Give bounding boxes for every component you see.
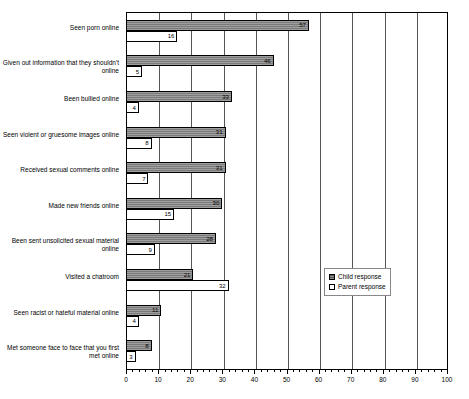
x-minor-tick — [216, 370, 217, 372]
bar-value-label: 46 — [264, 58, 271, 64]
legend-swatch-child-icon — [329, 274, 335, 280]
bar-parent: 3 — [126, 351, 136, 362]
x-tick-label: 10 — [154, 376, 161, 384]
x-tick-label: 60 — [315, 376, 322, 384]
bar-value-label: 31 — [216, 129, 223, 135]
bar-value-label: 32 — [219, 283, 226, 289]
x-tick — [287, 370, 288, 374]
x-minor-tick — [421, 370, 422, 372]
x-minor-tick — [197, 370, 198, 372]
x-minor-tick — [242, 370, 243, 372]
category-label: Seen porn online — [0, 24, 119, 32]
legend: Child response Parent response — [324, 268, 391, 296]
bar-child: 28 — [126, 233, 216, 244]
bar-parent: 9 — [126, 244, 155, 255]
x-axis-tick-labels: 0102030405060708090100 — [126, 376, 448, 388]
bar-parent: 8 — [126, 138, 152, 149]
bar-value-label: 15 — [164, 211, 171, 217]
bar-parent: 7 — [126, 173, 148, 184]
x-tick — [158, 370, 159, 374]
x-tick — [190, 370, 191, 374]
bar-value-label: 57 — [299, 22, 306, 28]
bar-child: 8 — [126, 340, 152, 351]
category-label: Been bullied online — [0, 95, 119, 103]
x-minor-tick — [402, 370, 403, 372]
x-minor-tick — [325, 370, 326, 372]
x-minor-tick — [171, 370, 172, 372]
bar-parent: 5 — [126, 66, 142, 77]
category-label: Been sent unsolicited sexual material on… — [0, 237, 119, 253]
legend-item: Child response — [329, 272, 386, 282]
x-minor-tick — [338, 370, 339, 372]
x-tick-label: 0 — [124, 376, 128, 384]
category-label: Received sexual comments online — [0, 166, 119, 174]
x-minor-tick — [280, 370, 281, 372]
x-tick-label: 40 — [251, 376, 258, 384]
x-minor-tick — [376, 370, 377, 372]
bar-chart: Seen porn onlineGiven out information th… — [0, 0, 469, 399]
x-tick — [447, 370, 448, 374]
x-minor-tick — [299, 370, 300, 372]
bar-child: 57 — [126, 20, 309, 31]
bar-child: 31 — [126, 162, 226, 173]
x-minor-tick — [364, 370, 365, 372]
x-tick-label: 100 — [442, 376, 453, 384]
bar-value-label: 31 — [216, 165, 223, 171]
x-minor-tick — [235, 370, 236, 372]
category-label: Met someone face to face that you first … — [0, 344, 119, 360]
bar-child: 30 — [126, 198, 222, 209]
bar-parent: 4 — [126, 316, 139, 327]
x-minor-tick — [184, 370, 185, 372]
x-tick-label: 90 — [411, 376, 418, 384]
x-minor-tick — [261, 370, 262, 372]
legend-label: Child response — [338, 273, 381, 281]
bar-value-label: 5 — [136, 69, 139, 75]
x-minor-tick — [152, 370, 153, 372]
bar-child: 46 — [126, 55, 274, 66]
x-minor-tick — [177, 370, 178, 372]
legend-item: Parent response — [329, 282, 386, 292]
x-tick — [126, 370, 127, 374]
x-minor-tick — [209, 370, 210, 372]
bar-value-label: 16 — [168, 33, 175, 39]
x-tick-label: 30 — [219, 376, 226, 384]
category-label: Seen racist or hateful material online — [0, 309, 119, 317]
bar-parent: 16 — [126, 31, 177, 42]
bar-child: 21 — [126, 269, 193, 280]
bar-value-label: 11 — [152, 307, 158, 313]
legend-label: Parent response — [338, 283, 386, 291]
x-minor-tick — [132, 370, 133, 372]
bar-child: 33 — [126, 91, 232, 102]
bar-value-label: 33 — [222, 94, 229, 100]
x-tick-label: 20 — [187, 376, 194, 384]
x-minor-tick — [293, 370, 294, 372]
bar-value-label: 9 — [149, 247, 152, 253]
x-minor-tick — [357, 370, 358, 372]
x-minor-tick — [203, 370, 204, 372]
bar-value-label: 8 — [145, 140, 148, 146]
x-tick — [254, 370, 255, 374]
x-minor-tick — [145, 370, 146, 372]
x-minor-tick — [267, 370, 268, 372]
bar-value-label: 3 — [129, 354, 132, 360]
x-tick-label: 80 — [379, 376, 386, 384]
bar-groups: 57164653343183173015289213211483 — [126, 13, 447, 369]
bar-child: 31 — [126, 127, 226, 138]
x-minor-tick — [274, 370, 275, 372]
x-minor-tick — [389, 370, 390, 372]
x-tick — [351, 370, 352, 374]
x-minor-tick — [434, 370, 435, 372]
bar-value-label: 30 — [213, 200, 220, 206]
category-axis-labels: Seen porn onlineGiven out information th… — [0, 13, 123, 369]
x-minor-tick — [139, 370, 140, 372]
x-tick — [415, 370, 416, 374]
category-label: Visited a chatroom — [0, 273, 119, 281]
x-tick — [319, 370, 320, 374]
x-minor-tick — [428, 370, 429, 372]
x-axis-ticks — [126, 370, 448, 375]
category-label: Made new friends online — [0, 202, 119, 210]
x-minor-tick — [312, 370, 313, 372]
category-label: Seen violent or gruesome images online — [0, 131, 119, 139]
x-tick-label: 50 — [283, 376, 290, 384]
x-minor-tick — [344, 370, 345, 372]
